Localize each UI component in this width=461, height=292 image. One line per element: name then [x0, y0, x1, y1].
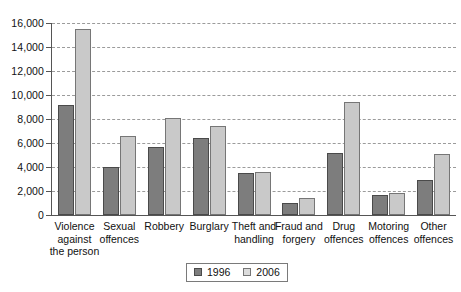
category-label-line: Other — [403, 220, 461, 233]
bar-group — [144, 23, 185, 215]
bar-group — [99, 23, 140, 215]
bar-1996-5 — [282, 203, 298, 215]
y-axis-tick — [46, 191, 52, 192]
category-label-line: offences — [89, 233, 150, 246]
y-axis-tick-label: 10,000 — [0, 90, 44, 100]
y-axis-tick-label: 0 — [0, 210, 44, 220]
y-axis-tick — [46, 143, 52, 144]
bar-2006-6 — [344, 102, 360, 215]
bar-1996-1 — [103, 167, 119, 215]
y-axis-tick — [46, 23, 52, 24]
bar-chart: 02,0004,0006,0008,00010,00012,00014,0001… — [0, 0, 461, 292]
bar-1996-7 — [372, 195, 388, 215]
y-axis-tick-label: 8,000 — [0, 114, 44, 124]
bar-group — [54, 23, 95, 215]
bar-1996-2 — [148, 147, 164, 215]
bar-1996-8 — [417, 180, 433, 215]
y-axis-tick — [46, 119, 52, 120]
bar-2006-0 — [75, 29, 91, 215]
x-axis-line — [51, 215, 456, 216]
bar-2006-7 — [389, 193, 405, 215]
bar-group — [413, 23, 454, 215]
y-axis-tick-label: 4,000 — [0, 162, 44, 172]
bar-1996-0 — [58, 105, 74, 215]
legend-label-2006: 2006 — [256, 266, 279, 278]
chart-legend: 1996 2006 — [186, 263, 288, 282]
bar-1996-3 — [193, 138, 209, 215]
bar-group — [323, 23, 364, 215]
category-label: Otheroffences — [403, 220, 461, 245]
bar-group — [189, 23, 230, 215]
legend-item-1996: 1996 — [194, 266, 230, 278]
bar-2006-3 — [210, 126, 226, 215]
legend-swatch-2006 — [243, 268, 251, 276]
y-axis-tick-label: 16,000 — [0, 18, 44, 28]
bar-group — [234, 23, 275, 215]
y-axis-tick — [46, 167, 52, 168]
y-axis-tick-label: 6,000 — [0, 138, 44, 148]
bar-1996-6 — [327, 153, 343, 215]
y-axis-tick — [46, 71, 52, 72]
bar-2006-5 — [299, 198, 315, 215]
legend-swatch-1996 — [194, 268, 202, 276]
bar-2006-4 — [255, 172, 271, 215]
legend-label-1996: 1996 — [207, 266, 230, 278]
y-axis-tick-label: 12,000 — [0, 66, 44, 76]
bar-2006-2 — [165, 118, 181, 215]
category-label-line: offences — [403, 233, 461, 246]
bar-group — [278, 23, 319, 215]
legend-item-2006: 2006 — [243, 266, 279, 278]
bar-group — [368, 23, 409, 215]
plot-area — [52, 23, 456, 215]
bar-2006-1 — [120, 136, 136, 215]
bar-1996-4 — [238, 173, 254, 215]
y-axis-tick — [46, 95, 52, 96]
bar-2006-8 — [434, 154, 450, 215]
y-axis-tick — [46, 215, 52, 216]
y-axis-tick-label: 2,000 — [0, 186, 44, 196]
y-axis-tick-label: 14,000 — [0, 42, 44, 52]
y-axis-tick — [46, 47, 52, 48]
category-label-line: the person — [44, 245, 105, 258]
